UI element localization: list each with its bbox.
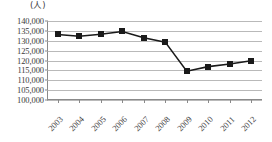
y-axis-tick-label: 105,000 (17, 85, 44, 95)
x-axis-tick-mark (208, 100, 209, 103)
x-axis-tick-mark (230, 100, 231, 103)
x-axis-tick-mark (79, 100, 80, 103)
x-axis-tick-label: 2010 (196, 114, 215, 133)
data-point-marker (205, 64, 211, 70)
y-axis-unit-label: (人) (30, 0, 46, 11)
data-point-marker (55, 31, 61, 37)
x-axis-tick-label: 2009 (175, 114, 194, 133)
y-axis-tick-label: 115,000 (17, 65, 44, 75)
data-point-marker (162, 39, 168, 45)
x-axis-tick-mark (101, 100, 102, 103)
data-point-marker (141, 35, 147, 41)
x-axis-tick-label: 2003 (46, 114, 65, 133)
data-point-marker (227, 61, 233, 67)
x-axis-tick-label: 2012 (239, 114, 258, 133)
y-axis-tick-label: 120,000 (17, 56, 44, 66)
y-axis-tick-label: 130,000 (17, 36, 44, 46)
y-axis-tick-label: 100,000 (17, 95, 44, 105)
x-axis-tick-mark (165, 100, 166, 103)
x-axis-tick-label: 2008 (153, 114, 172, 133)
data-point-marker (248, 58, 254, 64)
x-axis-tick-label: 2006 (110, 114, 129, 133)
chart-figure: (人) 140,000135,000130,000125,000120,0001… (0, 0, 272, 142)
x-axis-tick-mark (122, 100, 123, 103)
data-point-marker (184, 68, 190, 74)
data-point-marker (76, 33, 82, 39)
plot-area: 140,000135,000130,000125,000120,000115,0… (47, 21, 262, 100)
x-axis-tick-label: 2011 (218, 114, 237, 133)
y-axis-tick-label: 110,000 (17, 75, 44, 85)
x-axis-tick-label: 2007 (132, 114, 151, 133)
x-axis-tick-label: 2005 (89, 114, 108, 133)
x-axis-tick-mark (187, 100, 188, 103)
data-point-marker (98, 31, 104, 37)
y-axis-tick-label: 135,000 (17, 26, 44, 36)
data-point-marker (119, 28, 125, 34)
x-axis-tick-mark (144, 100, 145, 103)
x-axis-tick-mark (58, 100, 59, 103)
y-axis-tick-label: 140,000 (17, 16, 44, 26)
x-axis-tick-label: 2004 (67, 114, 86, 133)
x-axis-tick-mark (251, 100, 252, 103)
y-axis-tick-label: 125,000 (17, 46, 44, 56)
